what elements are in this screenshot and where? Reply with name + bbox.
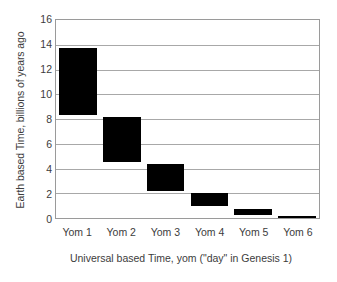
bar-group [231,20,275,218]
y-axis-tick-label: 16 [26,13,52,25]
bar [278,216,316,218]
x-axis-tick-label: Yom 5 [232,224,276,240]
y-axis-tick-label-group: 0246810121416 [26,19,52,219]
x-axis-tick-label: Yom 4 [188,224,232,240]
x-axis-tick-label: Yom 3 [143,224,187,240]
y-axis-tick-label: 14 [26,38,52,50]
bar-group [275,20,319,218]
bar-group [56,20,100,218]
x-axis-tick-label: Yom 2 [99,224,143,240]
x-axis-tick-label-group: Yom 1Yom 2Yom 3Yom 4Yom 5Yom 6 [55,224,320,240]
y-axis-tick-label: 4 [26,163,52,175]
bar [59,48,97,115]
chart-figure: Earth based Time, billions of years ago … [0,0,337,282]
bar [147,164,185,191]
x-axis-title: Universal based Time, yom ("day" in Gene… [36,252,326,264]
bar-group [144,20,188,218]
bar-group [188,20,232,218]
x-axis-tick-label: Yom 1 [55,224,99,240]
bar [103,117,141,163]
bar [191,193,229,206]
plot-area [55,19,320,219]
bar-series [56,20,319,218]
y-axis-tick-label: 2 [26,188,52,200]
y-axis-tick-label: 8 [26,113,52,125]
x-axis-tick-label: Yom 6 [276,224,320,240]
y-axis-tick-label: 6 [26,138,52,150]
y-axis-tick-label: 0 [26,213,52,225]
bar [234,209,272,215]
y-axis-tick-label: 12 [26,63,52,75]
bar-group [100,20,144,218]
y-axis-tick-label: 10 [26,88,52,100]
